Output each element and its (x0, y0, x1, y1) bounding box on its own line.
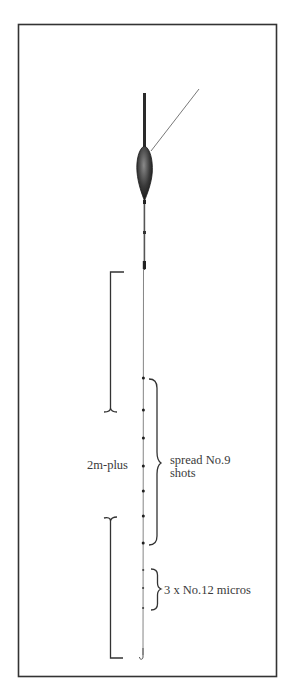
spread-brace (149, 379, 161, 545)
float-antenna (143, 93, 146, 150)
shot (142, 515, 145, 518)
frame-border (19, 25, 277, 677)
micros-label: 3 x No.12 micros (164, 583, 251, 597)
shot (142, 490, 145, 493)
hook (140, 648, 144, 659)
stem-band (143, 231, 146, 234)
shot (142, 465, 145, 468)
stem-band (143, 261, 146, 269)
shot (142, 542, 145, 545)
spread-label-line2: shots (170, 466, 196, 480)
shot (142, 409, 145, 412)
micros-brace (151, 569, 161, 610)
micro-shot (142, 569, 144, 571)
micro-shot (142, 607, 144, 609)
float-stem (144, 200, 146, 270)
stem-band (143, 200, 146, 204)
length-label: 2m-plus (87, 458, 128, 472)
shot (142, 377, 145, 380)
length-bracket-upper (104, 272, 124, 412)
micro-shot (142, 587, 144, 589)
spread-label-line1: spread No.9 (170, 453, 230, 467)
main-line (151, 89, 199, 151)
float-body (137, 146, 153, 201)
rig-diagram: 2m-plus spread No.9 shots 3 x No.12 micr… (0, 0, 289, 693)
shot (142, 437, 145, 440)
length-bracket-lower (104, 517, 123, 658)
hook-length (143, 269, 144, 655)
